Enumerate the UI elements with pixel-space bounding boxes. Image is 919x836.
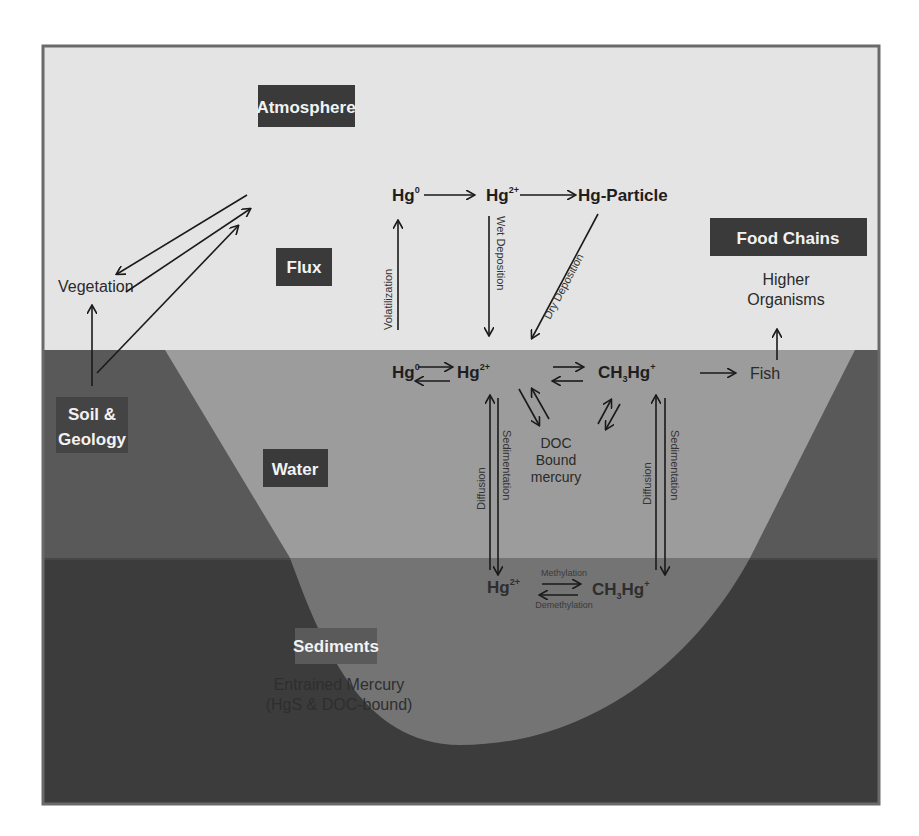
species-mehg-sediment: CH3Hg+ <box>592 579 650 601</box>
fish-label: Fish <box>750 365 780 382</box>
sedimentation-label-mehg: Sedimentation <box>669 430 681 500</box>
entrained-mercury-label-2: (HgS & DOC-bound) <box>266 696 413 713</box>
svg-text:Sediments: Sediments <box>293 637 379 656</box>
svg-text:Geology: Geology <box>58 430 127 449</box>
wet-deposition-label: Wet Deposition <box>495 216 507 290</box>
volatilization-label: Volatilization <box>382 269 394 330</box>
sedimentation-label-hg2: Sedimentation <box>501 430 513 500</box>
svg-text:Atmosphere: Atmosphere <box>256 98 355 117</box>
diffusion-label-mehg: Diffusion <box>641 462 653 505</box>
doc-bound-label-1: DOC <box>540 435 571 451</box>
sediments-label: Sediments <box>293 628 379 664</box>
higher-organisms-label-2: Organisms <box>747 291 824 308</box>
vegetation-label: Vegetation <box>58 278 134 295</box>
water-label: Water <box>263 449 328 487</box>
methylation-label: Methylation <box>541 568 587 578</box>
species-hg-particle: Hg-Particle <box>578 186 668 205</box>
soil-geology-label: Soil & Geology <box>56 397 128 453</box>
higher-organisms-label: Higher <box>762 271 810 288</box>
svg-text:Food Chains: Food Chains <box>737 229 840 248</box>
diffusion-label-hg2: Diffusion <box>475 467 487 510</box>
svg-text:Water: Water <box>272 460 319 479</box>
mercury-cycle-diagram: Atmosphere Hg0 Hg2+ Hg-Particle Flux Foo… <box>0 0 919 836</box>
demethylation-label: Demethylation <box>535 600 593 610</box>
entrained-mercury-label: Entrained Mercury <box>274 676 405 693</box>
svg-text:Flux: Flux <box>287 258 322 277</box>
flux-label: Flux <box>276 248 332 286</box>
doc-bound-label-2: Bound <box>536 452 576 468</box>
atmosphere-label: Atmosphere <box>256 85 355 127</box>
doc-bound-label-3: mercury <box>531 469 582 485</box>
svg-text:Soil &: Soil & <box>68 405 116 424</box>
food-chains-label: Food Chains <box>710 218 867 256</box>
species-mehg-water: CH3Hg+ <box>598 362 656 384</box>
